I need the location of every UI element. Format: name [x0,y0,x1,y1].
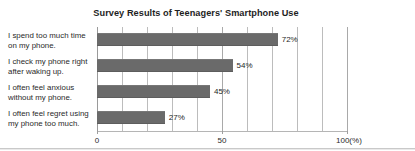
x-tick-label-50: 50 [218,136,227,145]
category-label-1: I check my phone right after waking up. [8,57,94,76]
plot-area: 72% 54% 45% 27% [97,27,348,131]
category-label-2-line-1: without my phone. [8,93,94,103]
category-label-2: I often feel anxious without my phone. [8,83,94,102]
bar-2 [97,85,210,98]
bar-value-3: 27% [169,111,185,124]
x-tick-label-0: 0 [95,136,99,145]
bar-value-1: 54% [237,59,253,72]
x-tick-50 [222,131,223,134]
bottom-divider-shadow [0,149,415,150]
x-tick-label-100: 100(%) [336,136,362,145]
bar-3 [97,111,165,124]
gridline-100 [347,27,348,131]
category-label-3-line-0: I often feel regret using [8,109,94,119]
category-label-3-line-1: my phone too much. [8,119,94,129]
survey-bar-chart: Survey Results of Teenagers' Smartphone … [0,0,415,151]
x-tick-0 [97,131,98,134]
category-label-1-line-0: I check my phone right [8,57,94,67]
bar-value-2: 45% [214,85,230,98]
bar-0 [97,33,278,46]
category-label-2-line-0: I often feel anxious [8,83,94,93]
chart-title: Survey Results of Teenagers' Smartphone … [78,8,314,18]
x-tick-100 [347,131,348,134]
category-label-0: I spend too much time on my phone. [8,31,94,50]
gridline-90 [322,27,323,131]
category-label-0-line-0: I spend too much time [8,31,94,41]
category-label-0-line-1: on my phone. [8,41,94,51]
bar-1 [97,59,233,72]
category-label-3: I often feel regret using my phone too m… [8,109,94,128]
bar-value-0: 72% [282,33,298,46]
category-label-1-line-1: after waking up. [8,67,94,77]
